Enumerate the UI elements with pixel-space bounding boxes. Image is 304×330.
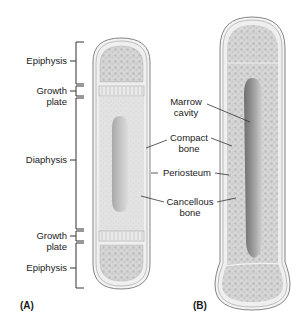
panel-label-b: (B) xyxy=(193,300,207,311)
panel-label-a: (A) xyxy=(20,300,34,311)
bone-diagram xyxy=(0,0,304,330)
label-compact-bone-line1: Compact xyxy=(164,132,214,143)
label-epiphysis-top: Epiphysis xyxy=(0,55,67,66)
label-marrow-cavity-line2: cavity xyxy=(160,107,212,118)
label-epiphysis-bottom: Epiphysis xyxy=(0,262,67,273)
label-compact-bone-line2: bone xyxy=(164,143,214,154)
label-cancellous-bone-line1: Cancellous xyxy=(162,196,218,207)
label-diaphysis: Diaphysis xyxy=(0,154,67,165)
label-marrow-cavity-line1: Marrow xyxy=(160,96,212,107)
label-growth-plate-top-line1: Growth xyxy=(0,85,67,96)
label-growth-plate-bottom-line2: plate xyxy=(0,241,67,252)
left-brackets xyxy=(70,42,84,288)
bone-b xyxy=(215,17,290,310)
label-periosteum: Periosteum xyxy=(158,167,216,178)
bone-a xyxy=(93,38,150,289)
label-growth-plate-bottom-line1: Growth xyxy=(0,230,67,241)
label-growth-plate-top-line2: plate xyxy=(0,96,67,107)
label-cancellous-bone-line2: bone xyxy=(162,207,218,218)
